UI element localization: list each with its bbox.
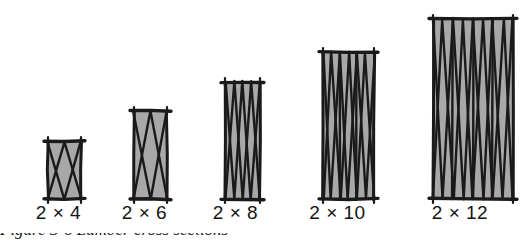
lumber-panel-2x4 (42, 135, 87, 205)
panel-drawing (219, 76, 266, 205)
chord-top (130, 110, 171, 111)
chord-bottom (429, 198, 517, 199)
rail-left (47, 141, 48, 199)
chord-top (44, 141, 85, 142)
rail-right (374, 52, 375, 199)
panel-fill (134, 111, 167, 199)
rail-right (260, 83, 261, 199)
lumber-panel-2x12 (427, 13, 519, 205)
lumber-panel-2x8 (219, 76, 266, 205)
chord-bottom (44, 198, 85, 199)
panel-drawing (427, 13, 519, 205)
chord-top (429, 18, 517, 19)
panel-label-2x6: 2 × 6 (108, 203, 181, 222)
lumber-panel-2x6 (128, 105, 173, 205)
chord-top (319, 52, 378, 53)
panel-drawing (128, 105, 173, 205)
rail-right (81, 141, 82, 200)
rail-left (433, 19, 434, 199)
panel-label-2x4: 2 × 4 (22, 203, 95, 222)
chord-bottom (130, 199, 171, 200)
panel-label-2x12: 2 × 12 (400, 203, 520, 222)
rail-left (134, 111, 135, 199)
caption-clip: Figure 3-6 Lumber cross sections (0, 233, 515, 241)
panel-drawing (42, 135, 87, 205)
chord-bottom (319, 198, 378, 199)
panel-label-2x10: 2 × 10 (292, 203, 383, 222)
panel-fill (48, 141, 81, 199)
panel-label-2x8: 2 × 8 (198, 203, 273, 222)
figure-caption: Figure 3-6 Lumber cross sections (0, 233, 515, 240)
interior-stud-1 (452, 19, 453, 199)
lumber-panel-2x10 (317, 46, 380, 205)
interior-stud-3 (492, 19, 493, 199)
rail-right (166, 111, 167, 198)
panel-drawing (317, 46, 380, 205)
